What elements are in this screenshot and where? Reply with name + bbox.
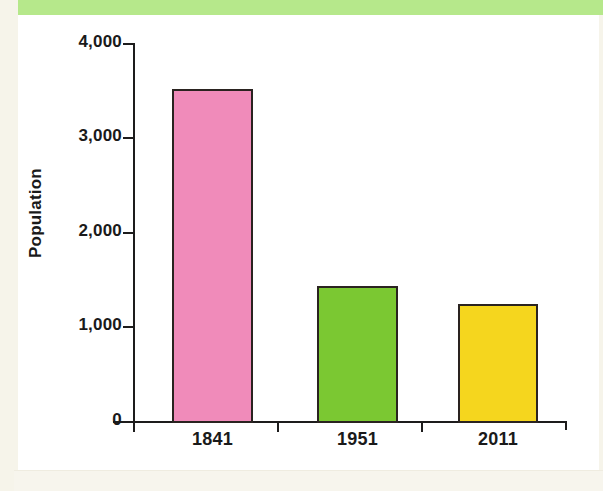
bar-2011[interactable] bbox=[458, 304, 538, 423]
page-bottom-band bbox=[14, 471, 603, 491]
y-tick-label-3000: 3,000 bbox=[58, 126, 122, 146]
y-axis-title: Population bbox=[26, 153, 46, 273]
chart-page: Population 4,000 3,000 2,000 1,000 0 bbox=[0, 0, 603, 491]
page-top-green-band bbox=[18, 0, 603, 15]
y-tick-label-0: 0 bbox=[58, 410, 122, 430]
x-tick-start bbox=[133, 422, 135, 432]
x-tick-2 bbox=[421, 422, 423, 432]
x-tick-1 bbox=[277, 422, 279, 432]
y-tick-2000 bbox=[123, 232, 134, 234]
x-label-1841: 1841 bbox=[172, 429, 253, 450]
x-axis-end-cap bbox=[565, 421, 567, 430]
y-tick-label-1000: 1,000 bbox=[58, 315, 122, 335]
bar-1841[interactable] bbox=[172, 89, 253, 423]
x-label-1951: 1951 bbox=[317, 429, 398, 450]
bar-chart: Population 4,000 3,000 2,000 1,000 0 bbox=[0, 15, 603, 470]
y-tick-label-4000: 4,000 bbox=[58, 32, 122, 52]
x-label-2011: 2011 bbox=[458, 429, 538, 450]
y-tick-4000 bbox=[123, 43, 134, 45]
bar-1951[interactable] bbox=[317, 286, 398, 423]
y-tick-1000 bbox=[123, 326, 134, 328]
y-tick-3000 bbox=[123, 137, 134, 139]
y-tick-label-2000: 2,000 bbox=[58, 221, 122, 241]
